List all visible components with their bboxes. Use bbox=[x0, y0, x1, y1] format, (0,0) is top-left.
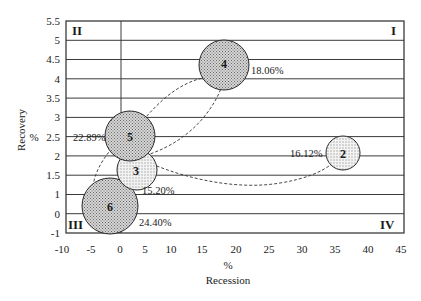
svg-text:6: 6 bbox=[107, 200, 113, 214]
svg-text:10: 10 bbox=[166, 243, 178, 255]
bubble-3-share-label: 15.20% bbox=[142, 185, 175, 196]
svg-text:25: 25 bbox=[264, 243, 276, 255]
bubble-5: 5 bbox=[105, 111, 155, 161]
svg-text:5: 5 bbox=[127, 130, 133, 144]
svg-text:2.5: 2.5 bbox=[46, 131, 60, 143]
svg-text:-5: -5 bbox=[86, 243, 96, 255]
svg-text:-1: -1 bbox=[51, 227, 60, 239]
svg-text:4: 4 bbox=[55, 73, 61, 85]
quadrant-label-I: I bbox=[391, 23, 396, 38]
y-axis-label: Recovery bbox=[15, 108, 27, 151]
svg-text:3: 3 bbox=[133, 164, 139, 178]
y-axis-unit: % bbox=[29, 131, 38, 143]
quadrant-label-II: II bbox=[72, 23, 82, 38]
bubble-2: 2 bbox=[326, 136, 360, 170]
quadrant-label-IV: IV bbox=[380, 217, 395, 232]
y-tick-labels: 5.5 5 4.5 4 3.5 3 2.5 2 1.5 1 0 -1 bbox=[46, 15, 60, 239]
quadrant-label-III: III bbox=[68, 217, 83, 232]
bubble-6-share-label: 24.40% bbox=[139, 217, 172, 228]
svg-text:4.5: 4.5 bbox=[46, 53, 60, 65]
bubble-4-share-label: 18.06% bbox=[251, 65, 284, 76]
svg-text:2: 2 bbox=[340, 147, 346, 161]
x-axis-unit: % bbox=[223, 259, 232, 271]
bubble-4: 4 bbox=[199, 40, 249, 90]
svg-text:0: 0 bbox=[117, 243, 123, 255]
svg-text:-10: -10 bbox=[55, 243, 70, 255]
trajectory-3-to-2 bbox=[152, 163, 333, 185]
svg-text:0: 0 bbox=[55, 208, 61, 220]
svg-text:15: 15 bbox=[197, 243, 209, 255]
svg-text:3: 3 bbox=[55, 111, 61, 123]
svg-text:1: 1 bbox=[55, 188, 61, 200]
svg-text:3.5: 3.5 bbox=[46, 92, 60, 104]
svg-text:45: 45 bbox=[396, 243, 408, 255]
svg-text:5: 5 bbox=[142, 243, 148, 255]
svg-text:35: 35 bbox=[330, 243, 342, 255]
svg-text:1.5: 1.5 bbox=[46, 169, 60, 181]
bubble-2-share-label: 16.12% bbox=[290, 148, 323, 159]
x-axis-label: Recession bbox=[206, 274, 251, 286]
svg-text:2: 2 bbox=[55, 150, 61, 162]
bubble-5-share-label: 22.89% bbox=[73, 132, 106, 143]
x-tick-labels: -10 -5 0 5 10 15 20 25 30 35 40 45 bbox=[55, 243, 407, 255]
svg-text:5.5: 5.5 bbox=[46, 15, 60, 27]
svg-text:30: 30 bbox=[297, 243, 309, 255]
svg-text:40: 40 bbox=[363, 243, 375, 255]
svg-text:5: 5 bbox=[55, 34, 61, 46]
bubble-chart: II I III IV 6 3 5 4 2 22.89% 15.20% 18.0… bbox=[0, 0, 421, 301]
svg-text:20: 20 bbox=[231, 243, 243, 255]
svg-text:4: 4 bbox=[221, 57, 227, 71]
